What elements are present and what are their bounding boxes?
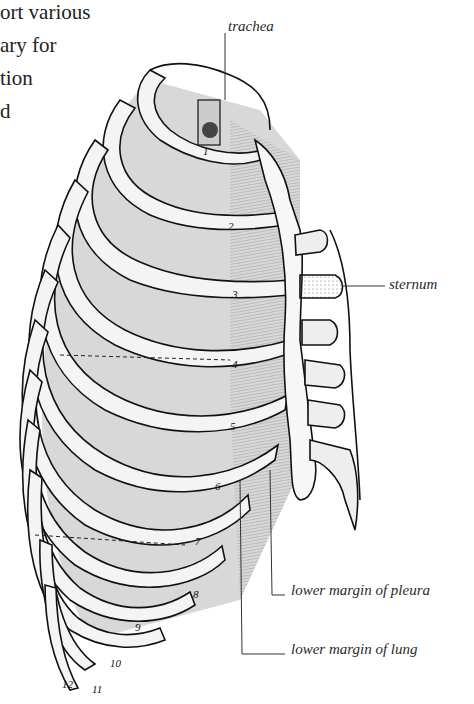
rib-number-5: 5 <box>230 420 236 432</box>
trachea-structure <box>198 100 220 145</box>
rib-number-7: 7 <box>195 535 201 547</box>
label-lower-margin-lung: lower margin of lung <box>291 641 418 658</box>
rib-number-3: 3 <box>231 288 238 300</box>
label-sternum: sternum <box>389 276 437 293</box>
label-trachea: trachea <box>228 18 274 35</box>
label-lower-margin-pleura: lower margin of pleura <box>291 582 430 599</box>
rib-number-6: 6 <box>215 480 221 492</box>
rib-number-11: 11 <box>92 683 102 695</box>
rib-number-4: 4 <box>232 358 238 370</box>
rib-number-1: 1 <box>203 145 209 157</box>
rib-number-9: 9 <box>135 621 141 633</box>
rib-number-10: 10 <box>110 657 122 669</box>
rib-number-8: 8 <box>193 588 199 600</box>
rib-number-2: 2 <box>228 220 234 232</box>
rib-number-12: 12 <box>62 678 74 690</box>
